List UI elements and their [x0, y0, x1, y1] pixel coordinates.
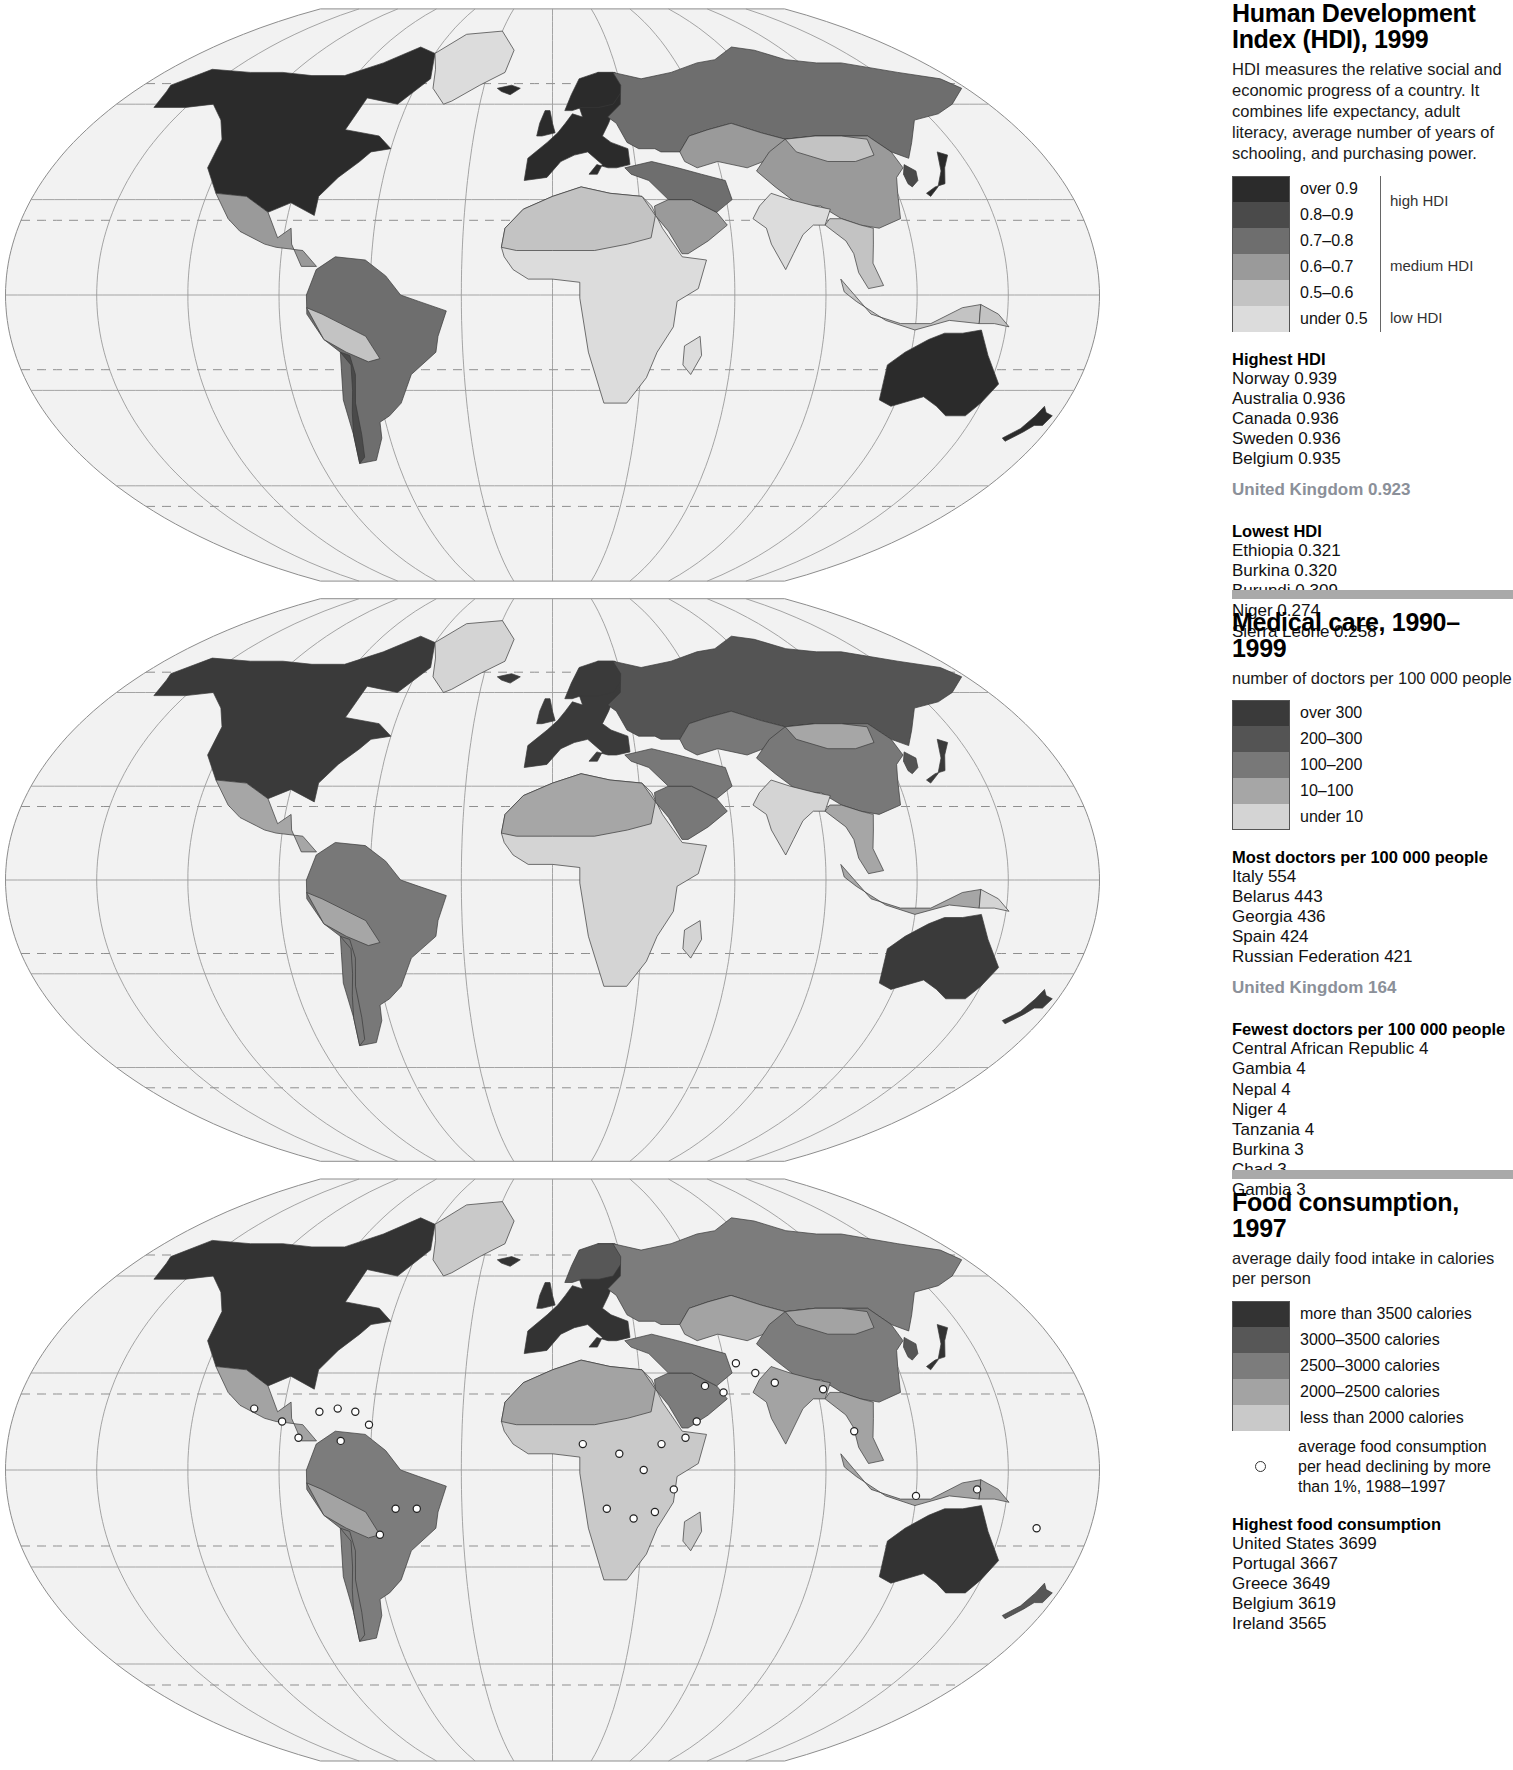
world-map-svg [0, 590, 1105, 1170]
page-title: Human Development Index (HDI), 1999 [1232, 0, 1513, 53]
list-heading: Most doctors per 100 000 people [1232, 848, 1513, 867]
list-item: Nepal 4 [1232, 1080, 1513, 1100]
legend-swatch [1232, 176, 1290, 202]
declining-consumption-marker-icon [851, 1428, 858, 1435]
panel-subtitle: number of doctors per 100 000 people [1232, 668, 1513, 689]
list-item: Burkina 0.320 [1232, 561, 1513, 581]
declining-consumption-marker-icon [630, 1515, 637, 1522]
legend-label: 2000–2500 calories [1290, 1379, 1440, 1405]
legend-label: over 300 [1290, 700, 1362, 726]
list-item: Australia 0.936 [1232, 389, 1513, 409]
list-item: Central African Republic 4 [1232, 1039, 1513, 1059]
legend-group-label: medium HDI [1380, 257, 1473, 274]
declining-consumption-marker-icon [251, 1405, 258, 1412]
list-heading: Fewest doctors per 100 000 people [1232, 1020, 1513, 1039]
list-item: Burkina 3 [1232, 1140, 1513, 1160]
legend-group-label: high HDI [1380, 192, 1448, 209]
declining-consumption-marker-icon [693, 1418, 700, 1425]
list-item: Ireland 3565 [1232, 1614, 1513, 1634]
legend-label: 200–300 [1290, 726, 1362, 752]
panel-subtitle: average daily food intake in calories pe… [1232, 1248, 1513, 1289]
legend-swatch [1232, 700, 1290, 726]
legend-swatch [1232, 1405, 1290, 1431]
declining-consumption-marker-icon [413, 1505, 420, 1512]
reference-country-row: United Kingdom 0.923 [1232, 480, 1513, 500]
declining-consumption-marker-icon [1033, 1525, 1040, 1532]
panel-hdi: Human Development Index (HDI), 1999 HDI … [0, 0, 1513, 590]
list-item: Russian Federation 421 [1232, 947, 1513, 967]
list-item: Belgium 0.935 [1232, 449, 1513, 469]
legend-label: under 0.5 [1290, 306, 1368, 332]
list-item: Norway 0.939 [1232, 369, 1513, 389]
panel-description: HDI measures the relative social and eco… [1232, 59, 1513, 165]
declining-consumption-marker-icon [334, 1405, 341, 1412]
list-item: Spain 424 [1232, 927, 1513, 947]
declining-consumption-marker-icon [752, 1369, 759, 1376]
world-map-graphic-food-consumption [0, 1170, 1105, 1770]
list-heading: Highest food consumption [1232, 1515, 1513, 1534]
list-heading: Lowest HDI [1232, 522, 1513, 541]
list-item: Niger 4 [1232, 1100, 1513, 1120]
list-heading: Highest HDI [1232, 350, 1513, 369]
legend-row: over 0.9 [1232, 176, 1513, 202]
declining-consumption-marker-icon [316, 1408, 323, 1415]
declining-consumption-marker-icon [974, 1486, 981, 1493]
list-item: Tanzania 4 [1232, 1120, 1513, 1140]
title-rule [1232, 590, 1513, 599]
legend-row: over 300 [1232, 700, 1513, 726]
legend-swatch [1232, 726, 1290, 752]
declining-consumption-marker-icon [365, 1421, 372, 1428]
legend-swatch [1232, 228, 1290, 254]
legend-label: under 10 [1290, 804, 1363, 830]
legend-label: 100–200 [1290, 752, 1362, 778]
legend-swatch [1232, 804, 1290, 830]
legend-swatch [1232, 280, 1290, 306]
legend-hdi: over 0.90.8–0.90.7–0.80.6–0.70.5–0.6unde… [1232, 176, 1513, 332]
legend-label: 0.8–0.9 [1290, 202, 1353, 228]
declining-consumption-marker-icon [720, 1389, 727, 1396]
world-map-svg [0, 1170, 1105, 1770]
legend-swatch [1232, 778, 1290, 804]
list-item: Greece 3649 [1232, 1574, 1513, 1594]
declining-consumption-marker-icon [392, 1505, 399, 1512]
list-item: Georgia 436 [1232, 907, 1513, 927]
declining-consumption-marker-icon [640, 1466, 647, 1473]
title-rule [1232, 1170, 1513, 1179]
declining-consumption-marker-icon [732, 1360, 739, 1367]
map-hdi[interactable] [0, 0, 1105, 590]
list-item: Belgium 3619 [1232, 1594, 1513, 1614]
legend-row: 10–100 [1232, 778, 1513, 804]
sidebar-medical-care: Medical care, 1990–1999 number of doctor… [1120, 590, 1513, 1170]
declining-consumption-marker-icon [337, 1437, 344, 1444]
page-title: Medical care, 1990–1999 [1232, 609, 1513, 662]
panel-food-consumption: Food consumption, 1997 average daily foo… [0, 1170, 1513, 1770]
declining-consumption-marker-icon [682, 1434, 689, 1441]
legend-label: more than 3500 calories [1290, 1301, 1472, 1327]
legend-swatch [1232, 1379, 1290, 1405]
declining-consumption-marker-icon [670, 1486, 677, 1493]
list-item: Canada 0.936 [1232, 409, 1513, 429]
declining-consumption-marker-icon [658, 1441, 665, 1448]
map-medical-care[interactable] [0, 590, 1105, 1170]
legend-label: 10–100 [1290, 778, 1353, 804]
legend-medical-care: over 300200–300100–20010–100under 10 [1232, 700, 1513, 830]
legend-point-symbol-label: average food consumption per head declin… [1288, 1437, 1513, 1497]
declining-consumption-marker-icon [603, 1505, 610, 1512]
page-title: Food consumption, 1997 [1232, 1189, 1513, 1242]
sidebar-hdi: Human Development Index (HDI), 1999 HDI … [1120, 0, 1513, 590]
legend-swatch [1232, 202, 1290, 228]
panel-medical-care: Medical care, 1990–1999 number of doctor… [0, 590, 1513, 1170]
map-food-consumption[interactable] [0, 1170, 1105, 1770]
legend-label: 3000–3500 calories [1290, 1327, 1440, 1353]
ranking-lists-food-consumption: Highest food consumptionUnited States 36… [1232, 1515, 1513, 1634]
legend-row: under 0.5 [1232, 306, 1513, 332]
legend-row: 2000–2500 calories [1232, 1379, 1513, 1405]
legend-row: less than 2000 calories [1232, 1405, 1513, 1431]
declining-consumption-marker-icon [295, 1434, 302, 1441]
legend-row: 0.7–0.8 [1232, 228, 1513, 254]
legend-row: under 10 [1232, 804, 1513, 830]
declining-consumption-marker-icon [701, 1382, 708, 1389]
legend-row: 2500–3000 calories [1232, 1353, 1513, 1379]
world-map-svg [0, 0, 1105, 590]
sidebar-food-consumption: Food consumption, 1997 average daily foo… [1120, 1170, 1513, 1770]
